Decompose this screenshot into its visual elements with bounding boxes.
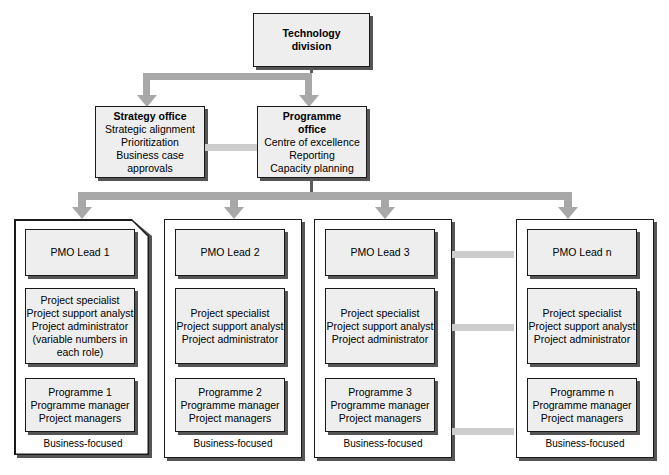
arrow-to-pmo-column-2 [224, 207, 244, 219]
connector-stem-right-level2 [305, 73, 312, 97]
node-staff-column-3: Project specialist Project support analy… [325, 288, 435, 364]
node-line: Programme 1 [48, 386, 112, 399]
node-line: PMO Lead 3 [351, 246, 410, 259]
arrow-to-pmo-column-n [558, 207, 578, 219]
node-line: Programme [283, 110, 341, 123]
connector-col3-to-coln-programme [452, 428, 514, 435]
node-line: Programme 2 [198, 386, 262, 399]
node-technology-division: Technology division [253, 13, 370, 67]
node-pmo-lead-1: PMO Lead 1 [25, 229, 135, 276]
node-strategy-office: Strategy office Strategic alignment Prio… [95, 106, 205, 178]
node-programme-column-3: Programme 3 Programme manager Project ma… [325, 378, 435, 432]
caption-pmo-column-2: Business-focused [164, 438, 302, 449]
node-line: office [298, 123, 326, 136]
node-line: Project managers [339, 412, 421, 425]
node-line: Centre of excellence [264, 136, 360, 149]
node-line: Project managers [189, 412, 271, 425]
connector-stem-left-level2 [143, 73, 150, 97]
node-programme-column-2: Programme 2 Programme manager Project ma… [175, 378, 285, 432]
node-line: Project support analyst [529, 320, 636, 333]
node-line: Programme manager [532, 399, 631, 412]
node-line: Strategy office [114, 110, 187, 123]
node-line: Technology [282, 27, 340, 40]
stem-programme-office [310, 178, 313, 192]
node-line: Prioritization [121, 136, 179, 149]
node-line: Capacity planning [270, 162, 353, 175]
node-line: Programme manager [180, 399, 279, 412]
node-line: Programme manager [30, 399, 129, 412]
connector-col3-to-coln-staff [452, 324, 514, 331]
node-line: PMO Lead n [553, 246, 612, 259]
node-pmo-lead-n: PMO Lead n [527, 229, 637, 276]
connector-bar-level2 [143, 73, 312, 80]
node-pmo-lead-3: PMO Lead 3 [325, 229, 435, 276]
node-line: Project administrator [332, 333, 428, 346]
caption-pmo-column-1: Business-focused [14, 438, 152, 449]
node-line: Project specialist [543, 307, 622, 320]
node-pmo-lead-2: PMO Lead 2 [175, 229, 285, 276]
org-chart-diagram: Technology division Strategy office Stra… [0, 0, 669, 475]
node-staff-column-n: Project specialist Project support analy… [527, 288, 637, 364]
node-line: (variable numbers in [32, 333, 127, 346]
node-line: Project support analyst [327, 320, 434, 333]
node-line: Project specialist [341, 307, 420, 320]
arrow-to-pmo-column-1 [72, 207, 92, 219]
node-programme-column-n: Programme n Programme manager Project ma… [527, 378, 637, 432]
node-line: Project administrator [32, 320, 128, 333]
caption-pmo-column-n: Business-focused [516, 438, 654, 449]
node-line: Project support analyst [27, 307, 134, 320]
node-programme-office: Programme office Centre of excellence Re… [257, 106, 367, 178]
node-line: Project support analyst [177, 320, 284, 333]
node-programme-column-1: Programme 1 Programme manager Project ma… [25, 378, 135, 432]
node-line: Project specialist [191, 307, 270, 320]
node-line: PMO Lead 1 [51, 246, 110, 259]
node-line: Programme 3 [348, 386, 412, 399]
node-line: Project managers [39, 412, 121, 425]
node-line: Project administrator [182, 333, 278, 346]
node-line: Strategic alignment [105, 123, 195, 136]
node-line: Project specialist [41, 294, 120, 307]
node-line: Project administrator [534, 333, 630, 346]
node-line: Reporting [289, 149, 335, 162]
node-line: division [292, 40, 332, 53]
node-line: PMO Lead 2 [201, 246, 260, 259]
node-staff-column-1: Project specialist Project support analy… [25, 288, 135, 364]
node-line: Project managers [541, 412, 623, 425]
node-line: Programme n [550, 386, 614, 399]
node-line: Programme manager [330, 399, 429, 412]
connector-col3-to-coln-lead [452, 251, 514, 258]
node-line: Business case [116, 149, 184, 162]
connector-bar-level3 [78, 192, 572, 200]
node-line: each role) [57, 346, 104, 359]
caption-pmo-column-3: Business-focused [314, 438, 452, 449]
node-line: approvals [127, 162, 173, 175]
node-staff-column-2: Project specialist Project support analy… [175, 288, 285, 364]
arrow-to-pmo-column-3 [375, 207, 395, 219]
connector-strategy-to-programme [205, 144, 258, 151]
